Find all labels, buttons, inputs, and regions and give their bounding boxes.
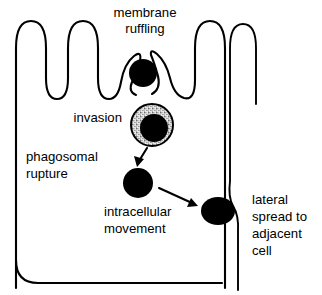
- membrane-ruffle-right: [151, 21, 225, 288]
- cell-invasion-diagram: membrane ruffling invasion phagosomal ru…: [0, 0, 322, 295]
- label-invasion: invasion: [74, 110, 122, 125]
- label-lateral-spread-line2: spread to: [252, 209, 307, 224]
- host-cell-basal-surface: [16, 260, 222, 283]
- label-intracellular-movement-line2: movement: [104, 221, 166, 236]
- label-membrane-ruffling-line2: ruffling: [125, 21, 164, 36]
- arrow-phagosomal-rupture: [134, 148, 147, 167]
- label-lateral-spread-line4: cell: [252, 243, 272, 258]
- label-membrane-ruffling-line1: membrane: [113, 5, 176, 20]
- label-intracellular-movement-line1: intracellular: [104, 204, 172, 219]
- bacterium-lateral-spread: [201, 197, 235, 225]
- label-lateral-spread-line3: adjacent: [252, 226, 302, 241]
- diagram-canvas: membrane ruffling invasion phagosomal ru…: [0, 0, 322, 295]
- phagosome: [131, 104, 173, 146]
- label-phagosomal-rupture-line2: rupture: [26, 166, 68, 181]
- bacterium-at-ruffle: [129, 59, 157, 87]
- bacterium-cytoplasmic: [123, 168, 153, 198]
- label-lateral-spread-line1: lateral: [252, 192, 288, 207]
- label-phagosomal-rupture-line1: phagosomal: [26, 149, 98, 164]
